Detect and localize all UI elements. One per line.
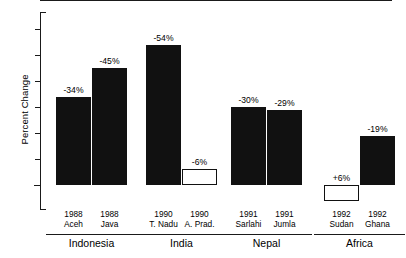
group-label-indonesia: Indonesia [46,237,137,250]
bar-value-label: -29% [261,99,308,108]
group-rule [221,234,312,235]
y-axis-line [40,12,41,210]
group-rule [46,234,137,235]
group-label-africa: Africa [314,237,405,250]
y-axis-tick [35,159,41,160]
y-axis-tick [35,107,41,108]
y-axis-top-cap [40,12,46,13]
group-label-nepal: Nepal [221,237,312,250]
group-rule [136,234,227,235]
bar-value-label: -6% [176,158,223,167]
group-rule [314,234,405,235]
y-axis-tick [35,81,41,82]
x-tick-label: 1991Jumla [256,209,313,229]
y-axis-label: Percent Change [19,40,30,180]
bar-sarlahi [231,107,266,185]
bar-jumla [267,110,302,185]
bar-value-label: -34% [50,86,97,95]
bar-ghana [360,136,395,185]
group-label-india: India [136,237,227,250]
bar-value-label: -54% [140,34,187,43]
bar-sudan [324,185,359,201]
bar-java [92,68,127,185]
x-tick-year: 1992 [349,209,406,219]
bar-value-label: +6% [318,174,365,183]
y-axis-tick [35,55,41,56]
x-tick-place: Ghana [349,219,406,229]
x-tick-year: 1988 [81,209,138,219]
bar-value-label: -45% [86,57,133,66]
zero-baseline [40,0,392,1]
bar-a-prad [182,169,217,185]
bar-value-label: -19% [354,125,401,134]
x-tick-year: 1991 [256,209,313,219]
x-tick-label: 1992Ghana [349,209,406,229]
x-tick-place: Java [81,219,138,229]
x-tick-place: Jumla [256,219,313,229]
x-tick-label: 1988Java [81,209,138,229]
y-axis-tick [34,185,41,186]
y-axis-tick [35,29,41,30]
y-axis-tick [35,133,41,134]
bar-aceh [56,97,91,185]
